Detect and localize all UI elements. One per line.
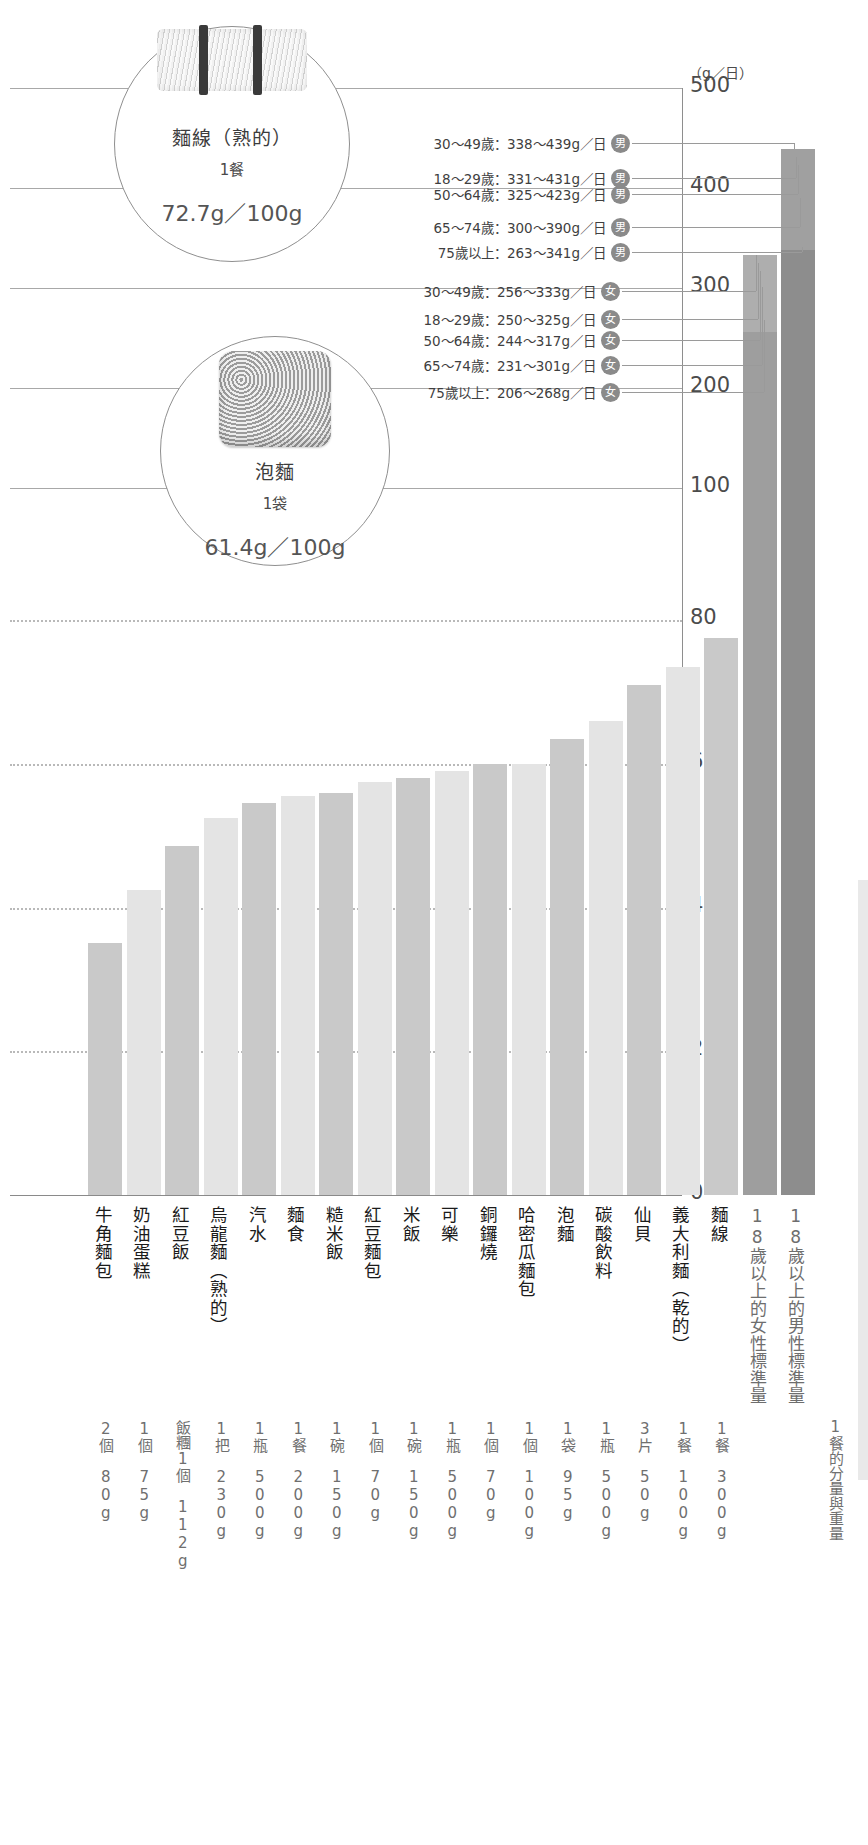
portion-16: 1餐300g — [704, 1420, 738, 1544]
bar-5 — [281, 796, 315, 1195]
bar-17 — [743, 255, 777, 1195]
male-leader-0-h — [632, 143, 794, 144]
chart-canvas: （g／日） 100200300400500020406080 麵線（熟的） 1餐… — [0, 0, 868, 1845]
portion-unit-4: 1瓶 — [250, 1420, 268, 1453]
x-label-11: 哈密瓜麵包 — [517, 1206, 535, 1299]
x-label-1: 奶油蛋糕 — [132, 1206, 150, 1280]
bar-2 — [165, 846, 199, 1195]
portion-weight-14: 50g — [635, 1468, 653, 1522]
portion-unit-11: 1個 — [520, 1420, 538, 1453]
portion-weight-labels: 2個80g1個75g飯糰1個112g1把230g1瓶500g1餐200g1碗15… — [0, 1420, 868, 1660]
x-axis-labels: 牛角麵包奶油蛋糕紅豆飯烏龍麵（熟的）汽水麵食糙米飯紅豆麵包米飯可樂銅鑼燒哈密瓜麵… — [0, 1206, 868, 1406]
portion-13: 1瓶500g — [589, 1420, 623, 1544]
female-annotation-3: 65～74歲：231～301g／日女 — [424, 355, 620, 375]
portion-2: 飯糰1個112g — [165, 1420, 199, 1574]
x-label-10: 銅鑼燒 — [478, 1206, 496, 1262]
x-label-15: 義大利麵（乾的） — [671, 1206, 689, 1354]
portion-14: 3片50g — [627, 1420, 661, 1526]
female-annotation-text-0: 30～49歲：256～333g／日 — [424, 281, 596, 301]
male-leader-3-v — [800, 198, 801, 227]
portion-weight-1: 75g — [135, 1468, 153, 1522]
portion-9: 1瓶500g — [435, 1420, 469, 1544]
x-label-7: 紅豆麵包 — [363, 1206, 381, 1280]
portion-weight-13: 500g — [597, 1468, 615, 1540]
portion-15: 1餐100g — [666, 1420, 700, 1544]
x-label-13: 碳酸飲料 — [594, 1206, 612, 1280]
portion-unit-3: 1把 — [212, 1420, 230, 1453]
female-leader-0-h — [622, 291, 756, 292]
callout-ramen-value: 61.4g／100g — [161, 529, 389, 561]
portion-0: 2個80g — [88, 1420, 122, 1526]
x-label-3: 烏龍麵（熟的） — [209, 1206, 227, 1336]
female-annotation-2: 50～64歲：244～317g／日女 — [424, 330, 620, 350]
noodle-bundle-icon — [157, 23, 307, 99]
male-leader-1-v — [796, 157, 797, 178]
callout-noodle-title: 麵線（熟的） — [115, 123, 349, 150]
portion-weight-0: 80g — [96, 1468, 114, 1522]
male-leader-2-v — [798, 165, 799, 194]
x-label-9: 可樂 — [440, 1206, 458, 1243]
bar-14 — [627, 685, 661, 1195]
bar-12 — [550, 739, 584, 1195]
female-leader-1-h — [622, 319, 758, 320]
portion-8: 1碗150g — [396, 1420, 430, 1544]
bar-7 — [358, 782, 392, 1195]
female-annotation-1: 18～29歲：250～325g／日女 — [424, 309, 620, 329]
portion-7: 1個70g — [358, 1420, 392, 1526]
portion-unit-12: 1袋 — [558, 1420, 576, 1453]
male-annotation-text-4: 75歲以上：263～341g／日 — [438, 242, 606, 262]
x-label-0: 牛角麵包 — [93, 1206, 111, 1280]
callout-ramen-portion: 1袋 — [161, 492, 389, 513]
bar-15 — [666, 667, 700, 1195]
portion-11: 1個100g — [512, 1420, 546, 1544]
portion-note: 1餐的分量與重量 — [826, 1418, 843, 1541]
female-annotation-0: 30～49歲：256～333g／日女 — [424, 281, 620, 301]
male-annotation-4: 75歲以上：263～341g／日男 — [438, 242, 630, 262]
portion-weight-2: 112g — [173, 1498, 191, 1570]
portion-unit-0: 2個 — [96, 1420, 114, 1453]
male-annotation-text-2: 50～64歲：325～423g／日 — [434, 184, 606, 204]
callout-noodle-value: 72.7g／100g — [115, 195, 349, 227]
bar-9 — [435, 771, 469, 1195]
male-leader-0-v — [794, 143, 795, 149]
male-badge-icon: 男 — [611, 243, 630, 262]
portion-1: 1個75g — [127, 1420, 161, 1526]
portion-12: 1袋95g — [550, 1420, 584, 1526]
female-annotation-text-1: 18～29歲：250～325g／日 — [424, 309, 596, 329]
x-label-4: 汽水 — [247, 1206, 265, 1243]
male-leader-2-h — [632, 194, 798, 195]
female-leader-4-v — [764, 320, 765, 392]
portion-unit-1: 1個 — [135, 1420, 153, 1453]
portion-unit-15: 1餐 — [674, 1420, 692, 1453]
male-badge-icon: 男 — [611, 134, 630, 153]
portion-unit-14: 3片 — [635, 1420, 653, 1453]
female-badge-icon: 女 — [601, 282, 620, 301]
portion-4: 1瓶500g — [242, 1420, 276, 1544]
bar-6 — [319, 793, 353, 1196]
female-leader-1-v — [758, 263, 759, 319]
female-annotation-text-2: 50～64歲：244～317g／日 — [424, 330, 596, 350]
male-annotation-0: 30～49歲：338～439g／日男 — [434, 133, 630, 153]
portion-unit-10: 1個 — [481, 1420, 499, 1453]
bar-4 — [242, 803, 276, 1195]
callout-ramen-title: 泡麵 — [161, 457, 389, 484]
x-label-14: 仙貝 — [632, 1206, 650, 1243]
portion-unit-7: 1個 — [366, 1420, 384, 1453]
portion-5: 1餐200g — [281, 1420, 315, 1544]
female-annotation-4: 75歲以上：206～268g／日女 — [428, 382, 620, 402]
portion-weight-6: 150g — [327, 1468, 345, 1540]
portion-weight-11: 100g — [520, 1468, 538, 1540]
portion-weight-16: 300g — [712, 1468, 730, 1540]
portion-unit-13: 1瓶 — [597, 1420, 615, 1453]
portion-unit-2: 飯糰1個 — [173, 1420, 191, 1483]
x-label-18: 18歲以上的男性標準量 — [786, 1206, 804, 1405]
portion-unit-8: 1碗 — [404, 1420, 422, 1453]
female-badge-icon: 女 — [601, 383, 620, 402]
callout-noodle: 麵線（熟的） 1餐 72.7g／100g — [114, 26, 350, 262]
female-leader-0-v — [756, 255, 757, 291]
bar-0 — [88, 943, 122, 1195]
portion-weight-3: 230g — [212, 1468, 230, 1540]
portion-10: 1個70g — [473, 1420, 507, 1526]
portion-weight-5: 200g — [289, 1468, 307, 1540]
female-leader-2-h — [622, 340, 760, 341]
